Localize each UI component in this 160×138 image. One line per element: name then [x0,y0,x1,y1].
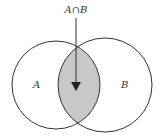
set-a-label: A [32,79,40,90]
venn-diagram: A B A∩B [0,0,160,138]
set-b-label: B [120,79,128,90]
intersection-label: A∩B [64,4,88,15]
